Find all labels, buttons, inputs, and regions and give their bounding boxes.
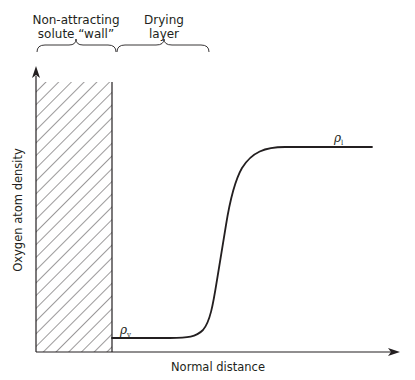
wall-label-line2: solute “wall” xyxy=(38,27,114,41)
x-axis-label: Normal distance xyxy=(171,360,265,374)
rho-vapor-label: ρv xyxy=(119,323,131,339)
drying-layer-label-line2: layer xyxy=(149,27,179,41)
rho-liquid-label: ρl xyxy=(333,131,344,147)
density-profile-diagram: Non-attracting solute “wall” Drying laye… xyxy=(0,0,415,380)
y-axis-label: Oxygen atom density xyxy=(11,148,25,272)
drying-layer-label-line1: Drying xyxy=(144,13,184,27)
wall-label-line1: Non-attracting xyxy=(32,13,119,27)
density-profile-curve xyxy=(112,147,372,338)
solute-wall-hatched-region xyxy=(36,82,112,352)
